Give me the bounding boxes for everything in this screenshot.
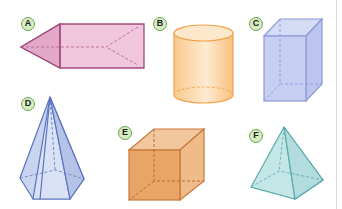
label-b-badge: B [153, 17, 167, 31]
label-e-badge: E [118, 126, 132, 140]
solids-figure [0, 0, 342, 209]
label-c-badge: C [249, 17, 263, 31]
label-f-badge: F [249, 129, 263, 143]
page-edge-divider [336, 0, 337, 209]
shape-c-box [264, 19, 322, 101]
shape-b-cylinder [174, 25, 233, 103]
shape-d-hex-pyramid [20, 97, 84, 199]
shape-e-cube [129, 129, 204, 200]
label-a-badge: A [21, 17, 35, 31]
label-d-badge: D [21, 97, 35, 111]
shape-a-prism [21, 24, 144, 68]
